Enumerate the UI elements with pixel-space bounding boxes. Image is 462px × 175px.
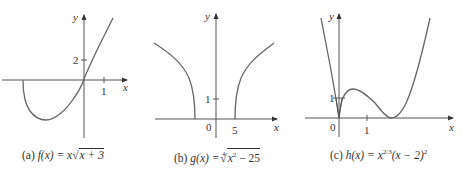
x-tick-label: 5 (232, 124, 238, 136)
graph-b: 1 0 5 x y (154, 10, 279, 138)
x-tick-label: 1 (101, 85, 107, 97)
graph-c: 1 0 1 x y (305, 10, 454, 137)
exponent-1: 2/3 (383, 148, 392, 156)
caption-b: (b) g(x) = 4√x2 − 25 (174, 148, 260, 164)
curve-f (23, 18, 113, 120)
x-axis-label: x (448, 121, 454, 133)
curve-g-left (154, 43, 195, 119)
caption-label: (c) (330, 149, 346, 161)
caption-c: (c) h(x) = x2/3(x − 2)2 (330, 148, 427, 161)
y-axis-label: y (72, 11, 78, 23)
radicand-text: x + 3 (80, 149, 104, 161)
radicand: x2 − 25 (227, 148, 260, 164)
origin-label: 0 (206, 121, 212, 133)
caption-a: (a) f(x) = x√x + 3 (22, 148, 104, 161)
x-axis-label: x (122, 81, 128, 93)
y-tick-label: 2 (73, 54, 79, 66)
caption-formula-lhs: h(x) = x (346, 149, 383, 161)
x-tick-label: 1 (364, 124, 370, 136)
y-axis-label: y (328, 10, 334, 22)
curve-h-right (339, 18, 430, 118)
caption-label: (b) (174, 152, 190, 164)
caption-formula-lhs: g(x) = (190, 152, 222, 164)
graph-a: 2 1 x y (2, 11, 128, 138)
caption-formula-lhs: f(x) = x (38, 149, 73, 161)
y-tick-label: 1 (205, 93, 211, 105)
y-axis-label: y (204, 10, 210, 22)
curve-g-right (235, 43, 274, 119)
origin-label: 0 (330, 121, 336, 133)
caption-label: (a) (22, 149, 38, 161)
radicand-rest: − 25 (236, 152, 260, 164)
exponent-2: 2 (424, 148, 428, 156)
y-tick-label: 1 (329, 92, 335, 104)
radicand: x + 3 (79, 148, 104, 161)
x-axis-label: x (273, 121, 279, 133)
caption-formula-mid: (x − 2) (392, 149, 424, 161)
